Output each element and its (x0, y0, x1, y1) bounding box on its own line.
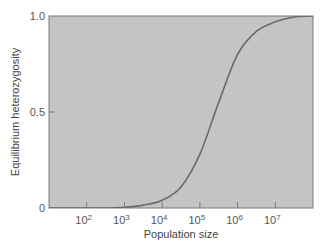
x-tick-label: 105 (189, 213, 206, 226)
x-tick-label: 104 (151, 213, 168, 226)
x-tick-label: 106 (226, 213, 243, 226)
chart: 102103104105106107 00.51.0 Population si… (0, 0, 325, 248)
y-tick-label: 0.5 (30, 106, 45, 118)
x-tick-label: 107 (264, 213, 281, 226)
plot-area (49, 16, 313, 208)
x-tick-label: 102 (75, 213, 92, 226)
x-axis-label: Population size (144, 228, 219, 240)
y-tick-label: 0 (39, 202, 45, 214)
y-tick-label: 1.0 (30, 10, 45, 22)
y-axis-label: Equilibrium heterozygosity (9, 47, 21, 176)
x-tick-label: 103 (113, 213, 130, 226)
